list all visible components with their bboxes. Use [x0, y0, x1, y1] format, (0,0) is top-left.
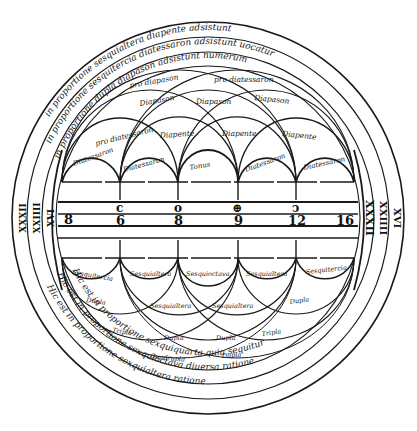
roman-right-outer: XVI [392, 208, 403, 229]
roman-left: XXXII XXIIII XVI [18, 203, 56, 234]
upper-arc-label-1: pro diatessaron [94, 125, 154, 148]
diagram-canvas: in proportione sesquialtera diapente ads… [0, 0, 417, 431]
upper-arc-label-3: Diapason [195, 97, 232, 106]
upper-arc-label-4: Diapason [253, 93, 290, 106]
number-16: 16 [336, 213, 354, 228]
roman-right-inner: XXXII [363, 200, 376, 236]
lower-label-r2-2: Sesquialtera [150, 302, 192, 310]
mid-arc-label-1: Diapente [159, 129, 196, 140]
small-arc-label-3: Tonus [189, 160, 211, 172]
roman-right: XXXII XXIIII XVI [363, 200, 403, 236]
left-number: 8 [64, 212, 73, 227]
mid-arc-label-2: Diapente [221, 129, 257, 138]
roman-left-outer: XXXII [18, 203, 28, 232]
number-9: 9 [234, 213, 243, 228]
lower-label-r4-2: Dupla [221, 351, 242, 360]
lower-label-r2-3: Sesquialtera [212, 302, 254, 310]
number-8: 8 [174, 213, 183, 228]
roman-left-middle: XXIIII [32, 203, 42, 234]
manuscript-diagram: in proportione sesquialtera diapente ads… [0, 0, 417, 431]
right-bracket [354, 150, 364, 290]
roman-left-inner: XVI [46, 209, 56, 227]
staff-lines [58, 182, 358, 258]
number-6: 6 [116, 213, 125, 228]
lower-label-r1-3: Sesquioctava [186, 270, 230, 278]
lower-label-r1-4: Sesquialtera [246, 270, 288, 278]
top-arc-label-2: pro diatessaron [214, 75, 274, 84]
small-arc-label-4: Diatessaron [243, 152, 287, 175]
number-12: 12 [288, 213, 306, 228]
lower-label-r2-4: Dupla [288, 295, 310, 306]
roman-right-middle: XXIIII [378, 201, 389, 236]
arc-feet [120, 182, 296, 258]
lower-label-r3-4: Tripla [261, 327, 282, 338]
upper-arc-label-2: Diapason [138, 93, 176, 108]
lower-label-r3-2: Dupla [163, 334, 184, 342]
lower-label-r1-2: Sesquialtera [130, 270, 172, 278]
lower-label-r3-3: Dupla [215, 334, 236, 342]
